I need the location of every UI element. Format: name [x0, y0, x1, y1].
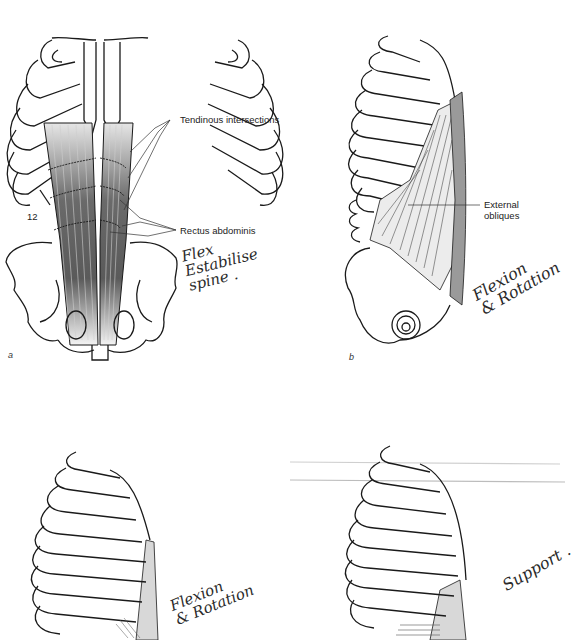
label-external-obliques: External obliques	[484, 200, 519, 222]
figure-a: Tendinous intersections Rectus abdominis…	[0, 0, 290, 370]
label-tendinous-intersections: Tendinous intersections	[180, 114, 279, 125]
ribcage-lateral-illustration-d	[290, 420, 582, 640]
figure-letter-a: a	[8, 350, 13, 360]
figure-letter-b: b	[349, 352, 354, 362]
figure-c: Flexion & Rotation	[0, 420, 290, 640]
external-obliques-illustration	[290, 0, 582, 370]
figure-d: Support .	[290, 420, 582, 640]
ribcage-lateral-illustration-c	[0, 420, 290, 640]
label-rib-12: 12	[27, 211, 38, 222]
figure-b: External obliques b Flexion & Rotation	[290, 0, 582, 370]
rectus-abdominis-illustration	[0, 0, 290, 370]
